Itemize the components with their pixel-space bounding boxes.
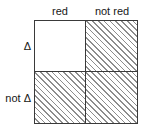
cell-delta-red	[35, 21, 86, 72]
cell-not-delta-red	[35, 72, 86, 123]
row-header-delta: Δ	[0, 40, 31, 53]
column-header-not-red: not red	[86, 5, 138, 18]
cell-delta-not-red	[86, 21, 137, 72]
contingency-matrix	[34, 20, 138, 124]
column-header-red: red	[34, 5, 86, 18]
cell-not-delta-not-red	[86, 72, 137, 123]
row-header-not-delta: not Δ	[0, 92, 31, 105]
